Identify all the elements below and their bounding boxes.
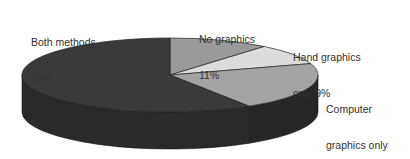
label-both-methods: Both methods 59% bbox=[31, 12, 96, 96]
label-computer-graphics-subtitle: graphics only bbox=[326, 139, 388, 151]
label-no-graphics-value: 11% bbox=[199, 69, 255, 81]
label-hand-graphics-title: Hand graphics bbox=[293, 51, 361, 63]
label-no-graphics-title: No graphics bbox=[199, 33, 255, 45]
label-computer-graphics: Computer graphics only 21% bbox=[326, 79, 388, 159]
label-both-methods-value: 59% bbox=[31, 72, 96, 84]
label-no-graphics: No graphics 11% bbox=[199, 9, 255, 93]
label-both-methods-title: Both methods bbox=[31, 36, 96, 48]
label-computer-graphics-title: Computer bbox=[326, 103, 388, 115]
